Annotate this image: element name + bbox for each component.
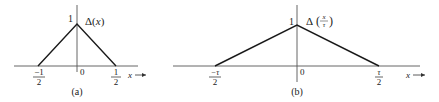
triangle-function-diagram: 1 Δ(x) −1 2 0 1 2 x (a) 1	[0, 0, 439, 102]
svg-text:x: x	[127, 70, 132, 80]
panel-a: 1 Δ(x) −1 2 0 1 2 x (a)	[14, 5, 146, 98]
svg-text:2: 2	[213, 77, 218, 87]
panel-a-right-tick-label: 1 2	[111, 67, 121, 87]
panel-b-caption: (b)	[291, 86, 303, 98]
svg-text:τ: τ	[378, 68, 382, 77]
panel-b-axis-label: x	[405, 70, 425, 80]
svg-text:2: 2	[377, 77, 382, 87]
svg-text:x: x	[321, 13, 326, 21]
svg-text:−τ: −τ	[211, 68, 220, 77]
panel-b-origin-label: 0	[300, 67, 305, 77]
panel-a-left-tick-label: −1 2	[33, 67, 45, 87]
svg-text:): )	[329, 14, 333, 28]
panel-b-right-tick-label: τ 2	[375, 68, 383, 87]
panel-a-peak-label: 1	[68, 13, 73, 24]
panel-a-origin-label: 0	[80, 67, 85, 77]
panel-a-function-label: Δ(x)	[85, 15, 105, 28]
svg-text:τ: τ	[323, 21, 326, 29]
svg-text:x: x	[405, 70, 410, 80]
panel-b-peak-label: 1	[289, 16, 294, 27]
panel-b-function-label: Δ ( x τ )	[306, 13, 333, 29]
svg-text:Δ: Δ	[306, 15, 313, 27]
panel-b: 1 Δ ( x τ ) −τ 2 0 τ 2 x (b)	[173, 5, 425, 98]
svg-text:1: 1	[114, 67, 119, 77]
panel-a-axis-label: x	[127, 70, 146, 80]
svg-text:2: 2	[114, 77, 119, 87]
svg-text:(: (	[316, 14, 320, 28]
panel-b-left-tick-label: −τ 2	[209, 68, 221, 87]
panel-a-caption: (a)	[71, 86, 82, 98]
svg-text:2: 2	[37, 77, 42, 87]
svg-text:−1: −1	[34, 67, 44, 77]
